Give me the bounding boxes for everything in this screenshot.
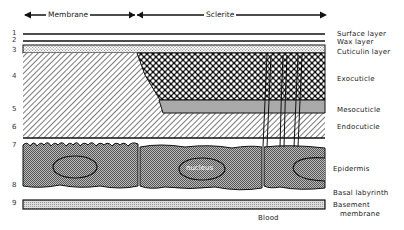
basement-membrane-label-2: membrane — [340, 211, 380, 218]
membrane-label: Membrane — [46, 11, 90, 19]
basement-membrane-label-1: Basement — [333, 202, 370, 209]
basement-membrane — [23, 200, 325, 209]
endocuticle-label: Endocuticle — [337, 124, 380, 131]
wax-layer-label: Wax layer — [337, 39, 374, 46]
layer-number-6: 6 — [12, 124, 16, 131]
layer-number-3: 3 — [12, 47, 16, 54]
basal-labyrinth-label: Basal labyrinth — [333, 190, 388, 197]
sclerite-label: Sclerite — [204, 11, 236, 19]
mesocuticle-label: Mesocuticle — [337, 107, 381, 114]
nucleus-label: nucleus — [186, 165, 213, 172]
layer-number-8: 8 — [12, 182, 16, 189]
nucleus-1 — [53, 156, 97, 178]
blood-label: Blood — [258, 215, 279, 222]
layer-number-9: 9 — [12, 200, 16, 207]
surface-layer-label: Surface layer — [337, 31, 386, 38]
cuticulin-layer-label: Cuticulin layer — [337, 49, 390, 56]
layer-number-2: 2 — [12, 37, 16, 44]
epidermis-label: Epidermis — [333, 166, 370, 173]
layer-number-7: 7 — [12, 142, 16, 149]
cuticulin-layer — [23, 45, 325, 53]
epidermis-layer — [23, 143, 325, 190]
layer-number-4: 4 — [12, 73, 16, 80]
exocuticle-label: Exocuticle — [337, 76, 375, 83]
layer-number-5: 5 — [12, 106, 16, 113]
